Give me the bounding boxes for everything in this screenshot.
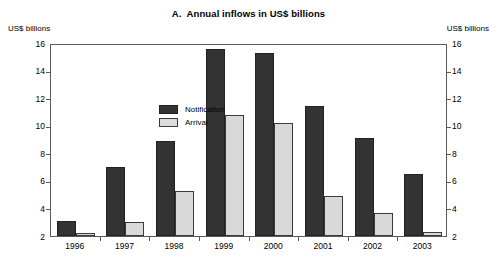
legend-swatch-arrival-icon [159,118,178,127]
x-tick-label-1996: 1996 [50,241,100,251]
y-tick-mark-right-4 [447,209,451,210]
x-tick-mark-2000 [249,237,250,241]
bar-notification-1997 [106,167,125,236]
bar-arrival-2003 [423,232,442,236]
y-tick-label-left-16: 16 [15,40,45,49]
y-tick-label-left-10: 10 [15,122,45,131]
y-tick-label-left-2: 2 [15,233,45,242]
x-tick-label-1999: 1999 [199,241,249,251]
y-tick-label-left-12: 12 [15,95,45,104]
chart-legend: Notification Arrival [159,104,225,130]
bar-notification-1998 [156,141,175,236]
x-tick-mark-1998 [149,237,150,241]
bar-arrival-2000 [274,123,293,236]
y-tick-label-right-14: 14 [452,67,482,76]
legend-item-arrival: Arrival [159,117,225,128]
bar-notification-2003 [404,174,423,236]
x-tick-label-1998: 1998 [149,241,199,251]
y-tick-label-right-2: 2 [452,233,482,242]
bar-notification-2000 [255,53,274,236]
x-tick-mark-1997 [100,237,101,241]
x-tick-mark-2001 [298,237,299,241]
y-tick-label-right-10: 10 [452,122,482,131]
y-tick-mark-right-14 [447,72,451,73]
bar-arrival-2001 [324,196,343,236]
bar-notification-2001 [305,106,324,236]
y-tick-label-right-12: 12 [452,95,482,104]
bar-arrival-1998 [175,191,194,236]
bar-arrival-1996 [76,233,95,236]
y-tick-label-right-16: 16 [452,40,482,49]
y-tick-mark-right-10 [447,127,451,128]
x-tick-mark-2002 [348,237,349,241]
bar-arrival-2002 [374,213,393,236]
legend-item-notification: Notification [159,104,225,115]
y-tick-label-right-8: 8 [452,150,482,159]
x-tick-label-2003: 2003 [397,241,447,251]
y-tick-label-left-4: 4 [15,205,45,214]
y-axis-label-right: US$ billions [447,24,489,33]
y-tick-mark-right-12 [447,99,451,100]
legend-swatch-notification-icon [159,105,178,114]
y-tick-mark-right-8 [447,154,451,155]
bar-arrival-1999 [225,115,244,236]
y-tick-label-left-14: 14 [15,67,45,76]
bar-notification-1996 [57,221,76,236]
legend-label-arrival: Arrival [185,118,208,127]
y-tick-label-right-4: 4 [452,205,482,214]
bar-arrival-1997 [125,222,144,236]
x-tick-label-2001: 2001 [298,241,348,251]
y-tick-label-right-6: 6 [452,177,482,186]
y-tick-label-left-6: 6 [15,177,45,186]
x-tick-label-1997: 1997 [100,241,150,251]
bar-notification-2002 [355,138,374,236]
bar-notification-1999 [206,49,225,236]
chart-figure: A. Annual inflows in US$ billions US$ bi… [0,0,497,269]
x-tick-mark-2003 [397,237,398,241]
x-tick-mark-1999 [199,237,200,241]
y-axis-label-left: US$ billions [8,24,50,33]
plot-area: Notification Arrival [50,44,447,237]
legend-label-notification: Notification [185,105,225,114]
x-tick-label-2000: 2000 [249,241,299,251]
y-tick-label-left-8: 8 [15,150,45,159]
chart-title: A. Annual inflows in US$ billions [0,8,497,19]
y-tick-mark-right-6 [447,182,451,183]
x-tick-label-2002: 2002 [348,241,398,251]
